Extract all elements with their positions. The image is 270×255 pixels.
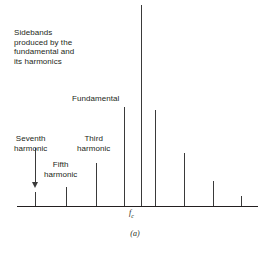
spectral-line [124, 107, 125, 206]
arrow-shaft [35, 148, 36, 184]
spectral-line [35, 192, 36, 206]
spectral-line [141, 5, 142, 206]
spectral-line [184, 153, 185, 206]
spectral-line [213, 181, 214, 206]
spectral-line [155, 110, 156, 206]
fundamental-label: Fundamental [72, 94, 119, 104]
spectral-line [66, 187, 67, 206]
spectrum-figure: Sidebands produced by the fundamental an… [0, 0, 270, 255]
seventh-harmonic-pointer-arrow [31, 148, 40, 192]
frequency-axis [17, 206, 258, 207]
spectral-line [96, 163, 97, 206]
third-harmonic-label: Third harmonic [77, 134, 110, 153]
carrier-frequency-label: fc [129, 208, 134, 219]
spectral-line [241, 196, 242, 206]
carrier-frequency-subscript: c [131, 213, 134, 219]
sidebands-annotation: Sidebands produced by the fundamental an… [14, 28, 74, 66]
fifth-harmonic-label: Fifth harmonic [44, 160, 77, 179]
figure-caption: (a) [0, 229, 270, 238]
arrow-head-icon [32, 182, 38, 188]
